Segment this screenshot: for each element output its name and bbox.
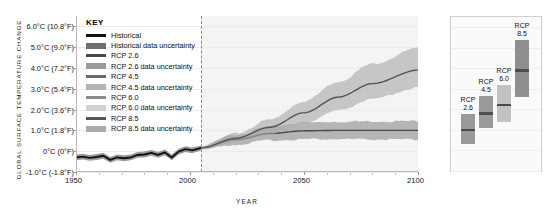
x-tickmark-minor [144,173,145,175]
rcp-bar-label: RCP6.0 [491,67,517,83]
gridline [76,172,418,173]
climate-projection-figure: GLOBAL SURFACE TEMPERATURE CHANGE 6.0°C … [0,0,550,222]
end-of-century-bar-panel: RCP2.6RCP4.5RCP6.0RCP8.5 [450,16,542,172]
y-tickmark [73,68,76,69]
legend-items: HistoricalHistorical data uncertaintyRCP… [86,30,212,134]
y-tick-label: 4.0°C (7.2°F) [0,64,74,73]
legend-item-label: RCP 6.0 [111,93,138,102]
y-tick-label: 2.0°C (3.6°F) [0,106,74,115]
plot-left-axis [76,16,77,172]
x-tick-label: 2050 [293,176,310,185]
y-tick-label: -1.0°C (-1.8°F) [0,168,74,177]
legend-band-swatch [86,105,106,111]
legend-item-label: RCP 4.5 data uncertainty [111,83,192,92]
rcp-mean-marker [515,69,529,71]
rcp-mean-marker [479,112,493,114]
legend-item-label: Historical data uncertainty [111,41,195,50]
legend-band-swatch [86,43,106,49]
y-tick-label: 3.0°C (5.4°F) [0,85,74,94]
legend-item-label: RCP 2.6 data uncertainty [111,62,192,71]
legend-item-label: RCP 8.5 [111,114,138,123]
legend-item-label: RCP 8.5 data uncertainty [111,124,192,133]
rcp-bar-label-line1: RCP [491,67,517,75]
rcp-range-bar [515,40,529,97]
rcp-bar-label-line2: 2.6 [455,104,481,112]
x-tickmark-minor [258,173,259,175]
legend-item: Historical [86,30,212,40]
rcp-range-bar [497,85,511,122]
plot-bottom-axis [76,171,418,172]
legend-line-swatch [86,34,106,37]
legend-item: Historical data uncertainty [86,40,212,50]
legend-item: RCP 8.5 data uncertainty [86,124,212,134]
rcp-bar-label: RCP2.6 [455,96,481,112]
y-tick-label: 6.0°C (10.8°F) [0,22,74,31]
legend-item: RCP 2.6 [86,51,212,61]
rcp-range-bar [479,96,493,128]
y-tickmark [73,47,76,48]
x-tickmark-minor [327,173,328,175]
legend-item: RCP 4.5 [86,72,212,82]
legend-line-swatch [86,75,106,78]
x-axis-title: YEAR [76,198,418,205]
legend: KEY HistoricalHistorical data uncertaint… [86,18,212,134]
rcp-bar-label: RCP8.5 [509,22,535,38]
x-tick-label: 2000 [179,176,196,185]
legend-band-swatch [86,84,106,90]
y-tickmark [73,110,76,111]
y-tick-label: 1.0°C (1.8°F) [0,126,74,135]
legend-title: KEY [86,18,212,27]
x-tick-label: 2100 [407,176,424,185]
x-tickmark [304,172,305,175]
x-tickmark-minor [281,173,282,175]
y-tickmark [73,130,76,131]
y-tickmark [73,89,76,90]
legend-band-swatch [86,63,106,69]
x-tickmark [76,172,77,175]
legend-item: RCP 8.5 [86,113,212,123]
rcp-bar-label-line2: 4.5 [473,86,499,94]
legend-item: RCP 2.6 data uncertainty [86,61,212,71]
y-tick-label: 0°C (0°F) [0,147,74,156]
x-tickmark-minor [122,173,123,175]
y-axis-tick-labels: 6.0°C (10.8°F)5.0°C (9.0°F)4.0°C (7.2°F)… [0,0,74,222]
legend-line-swatch [86,96,106,99]
legend-item: RCP 6.0 data uncertainty [86,103,212,113]
legend-line-swatch [86,117,106,120]
x-tickmark-minor [236,173,237,175]
rcp-range-bar [461,114,475,145]
x-tickmark-minor [167,173,168,175]
rcp-mean-marker [497,104,511,106]
legend-item-label: Historical [111,31,141,40]
y-tickmark [73,172,76,173]
x-tick-label: 1950 [65,176,82,185]
x-tickmark [190,172,191,175]
x-tickmark-minor [99,173,100,175]
rcp-bar-label-line1: RCP [455,96,481,104]
bar-panel-gridline [451,150,541,151]
rcp-bar-label-line2: 8.5 [509,30,535,38]
x-tickmark [418,172,419,175]
rcp-bar-label-line1: RCP [509,22,535,30]
legend-band-swatch [86,126,106,132]
x-tickmark-minor [372,173,373,175]
x-tickmark-minor [350,173,351,175]
legend-item-label: RCP 2.6 [111,51,138,60]
rcp-bar-label-line2: 6.0 [491,75,517,83]
y-tick-label: 5.0°C (9.0°F) [0,43,74,52]
legend-item-label: RCP 4.5 [111,72,138,81]
y-tickmark [73,151,76,152]
y-tickmark [73,26,76,27]
legend-item: RCP 6.0 [86,92,212,102]
rcp-mean-marker [461,129,475,131]
x-tickmark-minor [395,173,396,175]
bar-panel-gridline [451,171,541,172]
legend-item: RCP 4.5 data uncertainty [86,82,212,92]
legend-line-swatch [86,54,106,57]
legend-item-label: RCP 6.0 data uncertainty [111,103,192,112]
x-tickmark-minor [213,173,214,175]
